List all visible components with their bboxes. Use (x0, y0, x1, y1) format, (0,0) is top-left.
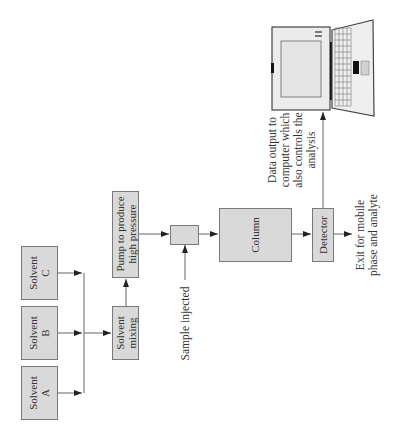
laptop-icon (0, 0, 402, 434)
hplc-diagram: Solvent C Solvent B Solvent A Solvent mi… (0, 0, 402, 434)
